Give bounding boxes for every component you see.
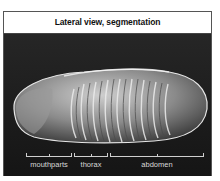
figure-title: Lateral view, segmentation <box>4 12 211 34</box>
thorax-bracket <box>74 153 108 157</box>
mouthparts-bracket <box>26 153 72 157</box>
micrograph-panel: mouthparts thorax abdomen <box>4 34 211 176</box>
segment-label-abdomen: abdomen <box>110 160 204 169</box>
segment-label-mouthparts: mouthparts <box>26 160 72 169</box>
abdomen-bracket <box>110 153 204 157</box>
segment-label-thorax: thorax <box>74 160 108 169</box>
figure-frame: Lateral view, segmentation <box>3 11 212 176</box>
